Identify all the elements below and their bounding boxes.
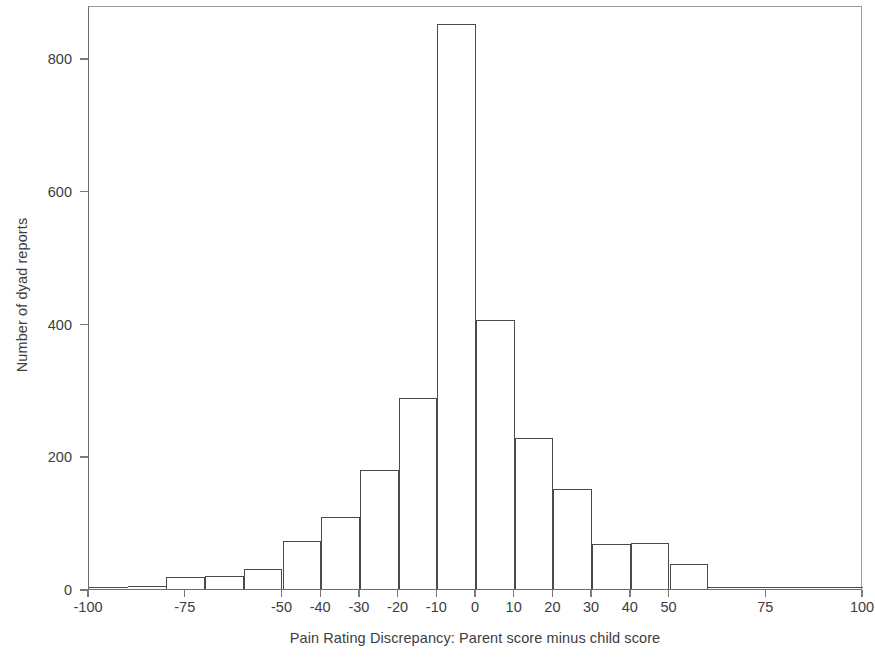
histogram-bars	[89, 7, 861, 589]
histogram-bar	[747, 587, 786, 589]
x-axis-tick-label: -75	[155, 599, 215, 615]
y-axis-tick-label: 0	[64, 581, 72, 599]
y-axis-tick: 200	[0, 448, 88, 466]
x-axis-tick-mark	[861, 590, 862, 597]
histogram-bar	[128, 586, 167, 589]
histogram-bar	[437, 24, 476, 589]
histogram-bar	[360, 470, 399, 589]
y-axis-tick-label: 200	[48, 448, 72, 466]
x-axis-tick-mark	[668, 590, 669, 597]
x-axis-tick-label: 75	[735, 599, 795, 615]
y-axis-tick-label: 600	[48, 183, 72, 201]
x-axis-tick-mark	[397, 590, 398, 597]
x-axis-title: Pain Rating Discrepancy: Parent score mi…	[88, 630, 862, 646]
x-axis-tick-mark	[358, 590, 359, 597]
y-axis-tick-label: 400	[48, 316, 72, 334]
x-axis-tick-mark	[281, 590, 282, 597]
histogram-bar	[283, 541, 322, 589]
histogram-bar	[515, 438, 554, 589]
x-axis-tick-label: 50	[639, 599, 699, 615]
x-axis-tick-mark	[184, 590, 185, 597]
x-axis-tick-mark	[474, 590, 475, 597]
histogram-bar	[631, 543, 670, 589]
x-axis-tick-mark	[590, 590, 591, 597]
x-axis-tick-mark	[513, 590, 514, 597]
histogram-bar	[824, 587, 863, 589]
histogram-bar	[321, 517, 360, 589]
x-axis-tick-label: 100	[832, 599, 875, 615]
histogram-bar	[205, 576, 244, 589]
x-axis-tick-label: -100	[58, 599, 118, 615]
histogram-bar	[476, 320, 515, 589]
y-axis-tick-mark	[80, 324, 88, 325]
x-axis-tick-mark	[436, 590, 437, 597]
y-axis-tick-mark	[80, 58, 88, 59]
x-axis-tick-mark	[87, 590, 88, 597]
histogram-figure: Number of dyad reports 0200400600800 -10…	[0, 0, 875, 660]
histogram-bar	[670, 564, 709, 589]
y-axis-tick: 400	[0, 316, 88, 334]
y-axis-title: Number of dyad reports	[14, 0, 36, 590]
x-axis-tick-mark	[552, 590, 553, 597]
histogram-bar	[166, 577, 205, 589]
histogram-bar	[592, 544, 631, 589]
histogram-bar	[89, 587, 128, 589]
y-axis-tick-label: 800	[48, 50, 72, 68]
y-axis-tick-mark	[80, 191, 88, 192]
histogram-bar	[786, 587, 825, 589]
y-axis-tick-mark	[80, 456, 88, 457]
histogram-bar	[244, 569, 283, 589]
histogram-bar	[399, 398, 438, 589]
y-axis-tick: 800	[0, 50, 88, 68]
y-axis-tick: 0	[0, 581, 88, 599]
y-axis-tick: 600	[0, 183, 88, 201]
histogram-bar	[708, 587, 747, 589]
histogram-bar	[553, 489, 592, 589]
x-axis-tick-mark	[765, 590, 766, 597]
x-axis-tick-mark	[629, 590, 630, 597]
x-axis-tick-mark	[320, 590, 321, 597]
plot-area	[88, 6, 862, 590]
